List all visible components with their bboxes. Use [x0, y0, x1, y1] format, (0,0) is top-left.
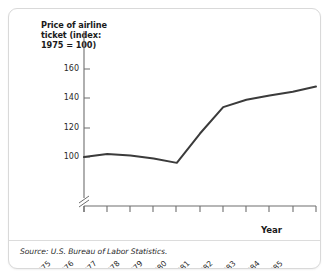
- y-tick-label-100: 100: [53, 152, 79, 161]
- x-axis-ticks: [84, 206, 316, 212]
- axis-lines: [84, 31, 316, 212]
- data-series-line: [84, 87, 316, 163]
- y-tick-label-140: 140: [53, 93, 79, 102]
- source-divider: [9, 240, 321, 241]
- x-axis-title: Year: [261, 225, 282, 235]
- y-tick-label-120: 120: [53, 123, 79, 132]
- source-note: Source: U.S. Bureau of Labor Statistics.: [20, 247, 167, 256]
- y-axis-ticks: [84, 69, 90, 157]
- y-tick-label-160: 160: [53, 64, 79, 73]
- plot-area: Price of airline ticket (index: 1975 = 1…: [9, 9, 321, 240]
- chart-panel: Price of airline ticket (index: 1975 = 1…: [8, 8, 321, 269]
